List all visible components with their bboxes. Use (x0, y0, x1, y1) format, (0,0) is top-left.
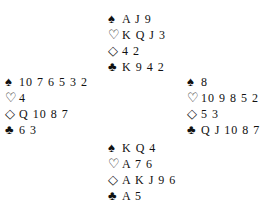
south-hand: ♠K Q 4 ♡A 7 6 ◇A K J 9 6 ♣A 5 (108, 140, 176, 204)
diamond-icon: ◇ (5, 106, 19, 122)
south-hearts: ♡A 7 6 (108, 156, 176, 172)
south-diamonds: ◇A K J 9 6 (108, 172, 176, 188)
north-hand: ♠A J 9 ♡K Q J 3 ◇4 2 ♣K 9 4 2 (108, 11, 166, 75)
spade-icon: ♠ (5, 74, 19, 90)
west-spades: ♠10 7 6 5 3 2 (5, 74, 88, 90)
east-diamonds: ◇5 3 (187, 106, 260, 122)
west-diamonds: ◇Q 10 8 7 (5, 106, 88, 122)
north-hearts: ♡K Q J 3 (108, 27, 166, 43)
west-clubs: ♣6 3 (5, 122, 88, 138)
south-clubs: ♣A 5 (108, 188, 176, 204)
north-clubs: ♣K 9 4 2 (108, 59, 166, 75)
club-icon: ♣ (108, 188, 122, 204)
spade-icon: ♠ (108, 140, 122, 156)
club-icon: ♣ (108, 59, 122, 75)
spade-icon: ♠ (108, 11, 122, 27)
east-clubs: ♣Q J 10 8 7 (187, 122, 260, 138)
north-diamonds: ◇4 2 (108, 43, 166, 59)
heart-icon: ♡ (108, 156, 122, 172)
diamond-icon: ◇ (187, 106, 201, 122)
west-hand: ♠10 7 6 5 3 2 ♡4 ◇Q 10 8 7 ♣6 3 (5, 74, 88, 138)
east-spades: ♠8 (187, 74, 260, 90)
heart-icon: ♡ (108, 27, 122, 43)
club-icon: ♣ (187, 122, 201, 138)
heart-icon: ♡ (5, 90, 19, 106)
diamond-icon: ◇ (108, 43, 122, 59)
diamond-icon: ◇ (108, 172, 122, 188)
club-icon: ♣ (5, 122, 19, 138)
east-hand: ♠8 ♡10 9 8 5 2 ◇5 3 ♣Q J 10 8 7 (187, 74, 260, 138)
east-hearts: ♡10 9 8 5 2 (187, 90, 260, 106)
heart-icon: ♡ (187, 90, 201, 106)
west-hearts: ♡4 (5, 90, 88, 106)
spade-icon: ♠ (187, 74, 201, 90)
south-spades: ♠K Q 4 (108, 140, 176, 156)
north-spades: ♠A J 9 (108, 11, 166, 27)
